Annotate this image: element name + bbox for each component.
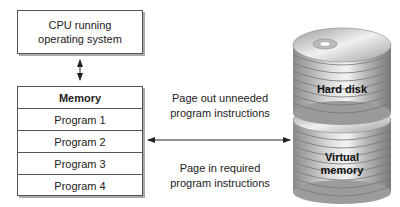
page-in-label: Page in required program instructions: [150, 161, 290, 191]
virtual-line-2: memory: [300, 164, 384, 177]
page-in-line-1: Page in required: [150, 161, 290, 176]
hard-disk-stack: [293, 28, 391, 125]
virtual-line-1: Virtual: [300, 151, 384, 164]
page-out-label: Page out unneeded program instructions: [150, 91, 290, 121]
program-row: Program 2: [18, 131, 142, 153]
cpu-box: CPU running operating system: [17, 10, 143, 54]
virtual-memory-label: Virtual memory: [300, 151, 384, 177]
program-row: Program 1: [18, 109, 142, 131]
program-row: Program 3: [18, 153, 142, 175]
memory-title: Memory: [18, 87, 142, 109]
page-out-line-1: Page out unneeded: [150, 91, 290, 106]
memory-box: Memory Program 1 Program 2 Program 3 Pro…: [17, 86, 143, 196]
page-in-line-2: program instructions: [150, 176, 290, 191]
hard-disk-label: Hard disk: [300, 83, 384, 95]
cpu-line-2: operating system: [38, 32, 122, 46]
program-row: Program 4: [18, 175, 142, 197]
page-out-line-2: program instructions: [150, 106, 290, 121]
cpu-line-1: CPU running: [38, 18, 122, 32]
